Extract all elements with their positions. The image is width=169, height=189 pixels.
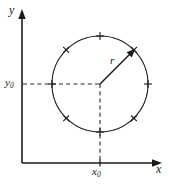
y-axis-group [18,9,25,163]
circle-tick-315 [131,115,137,121]
circle-tick-0 [144,80,152,88]
y-axis-label: y [9,4,14,16]
circle-diagram-svg [0,0,169,189]
y-axis-arrowhead [18,9,25,19]
radius-line [100,53,132,85]
circle-tick-135 [63,47,69,53]
radius-arrow-group [100,49,136,85]
y0-label-subscript: 0 [10,81,14,90]
circle-tick-225 [63,115,69,121]
x0-label-subscript: 0 [97,170,101,179]
radius-label: r [110,55,114,66]
dashed-guides-group [23,84,100,163]
circle-tick-180 [48,80,56,88]
figure-canvas: y x y0 x0 r [0,0,169,189]
x0-label: x0 [92,166,101,179]
x-axis-label: x [156,163,161,175]
y0-label: y0 [5,77,14,90]
circle-tick-90 [96,32,104,40]
circle-tick-270 [96,128,104,136]
